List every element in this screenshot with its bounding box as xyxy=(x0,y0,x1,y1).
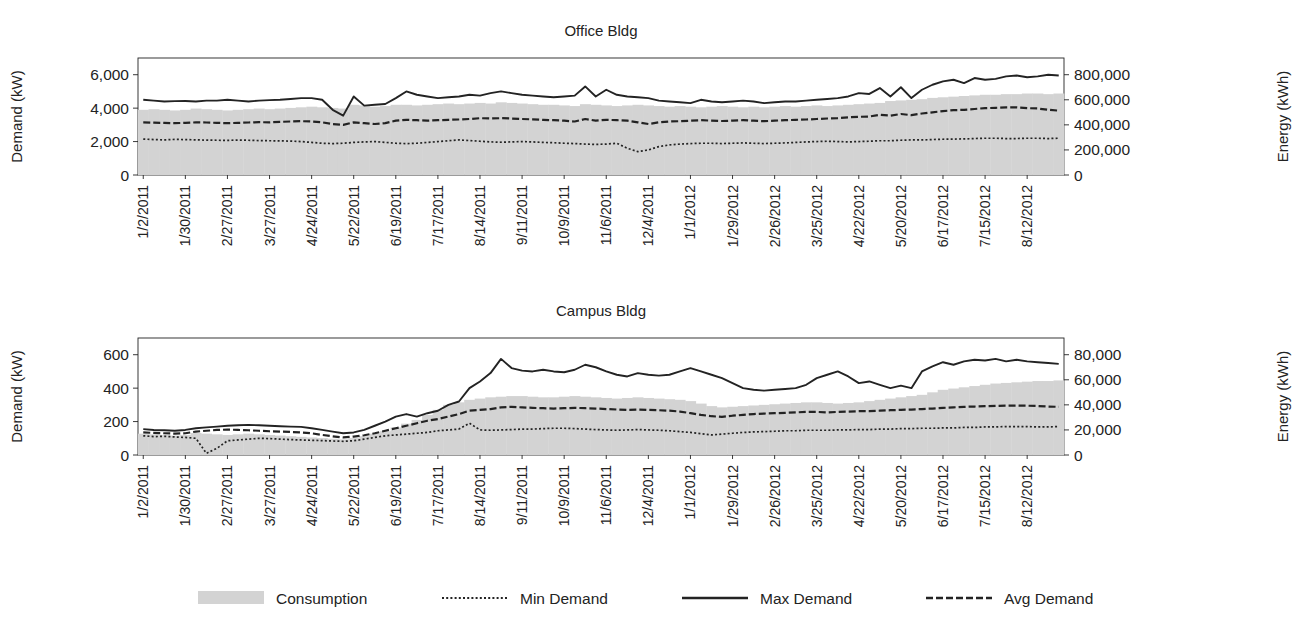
left-tick-label: 2,000 xyxy=(90,133,129,150)
x-tick-label: 10/9/2011 xyxy=(556,185,572,246)
x-tick-label: 2/26/2012 xyxy=(767,465,783,527)
x-tick-label: 1/30/2011 xyxy=(177,465,193,526)
x-tick-label: 9/11/2011 xyxy=(514,185,530,245)
right-tick-label: 600,000 xyxy=(1074,91,1130,108)
x-tick-label: 1/30/2011 xyxy=(177,185,193,246)
left-axis-title: Demand (kW) xyxy=(8,70,25,163)
right-tick-label: 400,000 xyxy=(1074,116,1130,133)
x-tick-label: 2/27/2011 xyxy=(219,185,235,246)
chart-canvas-campus: Campus Bldg0200400600020,00040,00060,000… xyxy=(0,302,1306,572)
right-tick-label: 20,000 xyxy=(1074,421,1122,438)
legend-item-consumption[interactable]: Consumption xyxy=(198,590,367,607)
legend-swatch-consumption xyxy=(198,591,264,604)
x-tick-label: 4/22/2012 xyxy=(851,185,867,247)
x-tick-label: 3/25/2012 xyxy=(809,185,825,247)
x-tick-label: 8/14/2011 xyxy=(472,185,488,246)
x-tick-label: 7/15/2012 xyxy=(977,465,993,527)
left-axis-ticks: 0200400600 xyxy=(103,346,138,463)
legend-label: Avg Demand xyxy=(1004,590,1093,607)
x-tick-label: 11/6/2011 xyxy=(598,185,614,245)
x-tick-label: 1/1/2012 xyxy=(682,465,698,520)
x-tick-label: 4/24/2011 xyxy=(304,465,320,526)
chart-office-bldg: Office Bldg02,0004,0006,0000200,000400,0… xyxy=(0,22,1306,292)
legend-label: Min Demand xyxy=(520,590,608,607)
left-tick-label: 400 xyxy=(103,380,129,397)
x-tick-label: 5/20/2012 xyxy=(893,185,909,247)
x-tick-label: 9/11/2011 xyxy=(514,465,530,525)
x-tick-label: 3/27/2011 xyxy=(262,185,278,246)
x-tick-label: 5/22/2011 xyxy=(346,465,362,526)
x-axis-ticks: 1/2/20111/30/20112/27/20113/27/20114/24/… xyxy=(135,175,1035,247)
x-tick-label: 6/19/2011 xyxy=(388,185,404,246)
x-tick-label: 7/17/2011 xyxy=(430,465,446,526)
right-axis-ticks: 020,00040,00060,00080,000 xyxy=(1064,346,1122,463)
left-axis-ticks: 02,0004,0006,000 xyxy=(90,66,138,183)
right-axis-title: Energy (kWh) xyxy=(1274,351,1291,443)
legend-label: Consumption xyxy=(276,590,367,607)
x-tick-label: 12/4/2011 xyxy=(640,465,656,526)
x-tick-label: 5/20/2012 xyxy=(893,465,909,527)
x-tick-label: 8/14/2011 xyxy=(472,465,488,526)
x-tick-label: 3/27/2011 xyxy=(262,465,278,526)
chart-title: Office Bldg xyxy=(564,22,637,39)
right-tick-label: 40,000 xyxy=(1074,396,1122,413)
x-tick-label: 5/22/2011 xyxy=(346,185,362,246)
x-tick-label: 1/2/2011 xyxy=(135,465,151,519)
x-tick-label: 7/15/2012 xyxy=(977,185,993,247)
chart-legend: ConsumptionMin DemandMax DemandAvg Deman… xyxy=(0,578,1306,618)
chart-canvas-office: Office Bldg02,0004,0006,0000200,000400,0… xyxy=(0,22,1306,292)
figure-root: Office Bldg02,0004,0006,0000200,000400,0… xyxy=(0,0,1306,634)
x-tick-label: 6/19/2011 xyxy=(388,465,404,526)
chart-campus-bldg: Campus Bldg0200400600020,00040,00060,000… xyxy=(0,302,1306,572)
x-tick-label: 6/17/2012 xyxy=(935,185,951,247)
right-tick-label: 60,000 xyxy=(1074,371,1122,388)
legend-item-avg-demand[interactable]: Avg Demand xyxy=(926,590,1093,607)
right-tick-label: 800,000 xyxy=(1074,66,1130,83)
x-tick-label: 8/12/2012 xyxy=(1019,465,1035,527)
x-tick-label: 4/22/2012 xyxy=(851,465,867,527)
left-tick-label: 0 xyxy=(120,167,129,184)
x-tick-label: 4/24/2011 xyxy=(304,185,320,246)
x-tick-label: 3/25/2012 xyxy=(809,465,825,527)
x-tick-label: 6/17/2012 xyxy=(935,465,951,527)
legend-item-max-demand[interactable]: Max Demand xyxy=(682,590,852,607)
right-tick-label: 80,000 xyxy=(1074,346,1122,363)
x-tick-label: 11/6/2011 xyxy=(598,465,614,525)
left-tick-label: 200 xyxy=(103,413,129,430)
x-tick-label: 1/29/2012 xyxy=(725,465,741,527)
right-tick-label: 0 xyxy=(1074,447,1083,464)
x-tick-label: 1/1/2012 xyxy=(682,185,698,240)
left-tick-label: 4,000 xyxy=(90,100,129,117)
left-tick-label: 0 xyxy=(120,447,129,464)
x-tick-label: 1/2/2011 xyxy=(135,185,151,239)
right-tick-label: 200,000 xyxy=(1074,141,1130,158)
legend-item-min-demand[interactable]: Min Demand xyxy=(442,590,608,607)
legend-canvas: ConsumptionMin DemandMax DemandAvg Deman… xyxy=(0,578,1306,618)
legend-label: Max Demand xyxy=(760,590,852,607)
x-tick-label: 7/17/2011 xyxy=(430,185,446,246)
chart-title: Campus Bldg xyxy=(556,302,646,319)
x-tick-label: 2/27/2011 xyxy=(219,465,235,526)
left-axis-title: Demand (kW) xyxy=(8,350,25,443)
x-tick-label: 10/9/2011 xyxy=(556,465,572,526)
right-axis-title: Energy (kWh) xyxy=(1274,71,1291,163)
x-axis-ticks: 1/2/20111/30/20112/27/20113/27/20114/24/… xyxy=(135,455,1035,527)
x-tick-label: 12/4/2011 xyxy=(640,185,656,246)
left-tick-label: 6,000 xyxy=(90,66,129,83)
right-tick-label: 0 xyxy=(1074,167,1083,184)
right-axis-ticks: 0200,000400,000600,000800,000 xyxy=(1064,66,1130,183)
x-tick-label: 2/26/2012 xyxy=(767,185,783,247)
left-tick-label: 600 xyxy=(103,346,129,363)
x-tick-label: 1/29/2012 xyxy=(725,185,741,247)
x-tick-label: 8/12/2012 xyxy=(1019,185,1035,247)
